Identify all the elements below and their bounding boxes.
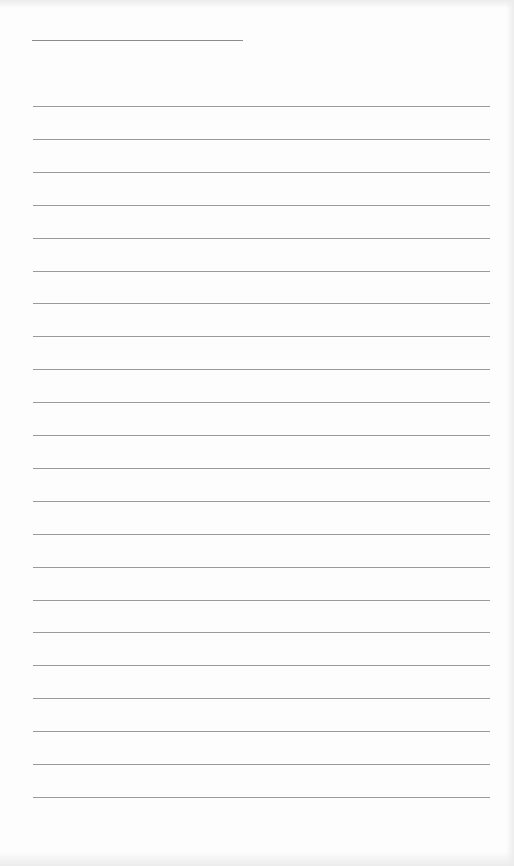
ruled-line [33,665,490,666]
ruled-line [33,106,490,107]
ruled-line [33,600,490,601]
ruled-line [33,369,490,370]
page-right-edge [506,0,514,866]
ruled-line [33,468,490,469]
ruled-line [33,567,490,568]
ruled-line [33,698,490,699]
page-top-edge [0,0,514,8]
ruled-line [33,534,490,535]
ruled-line [33,139,490,140]
ruled-line [33,271,490,272]
ruled-line [33,501,490,502]
ruled-line [33,205,490,206]
ruled-line [33,632,490,633]
ruled-line [33,172,490,173]
ruled-line [33,402,490,403]
ruled-line [33,336,490,337]
ruled-line [33,303,490,304]
ruled-line [33,435,490,436]
ruled-line [33,764,490,765]
header-line [32,40,243,41]
ruled-line [33,238,490,239]
page-bottom-edge [0,852,514,866]
ruled-line [33,797,490,798]
ruled-line [33,731,490,732]
